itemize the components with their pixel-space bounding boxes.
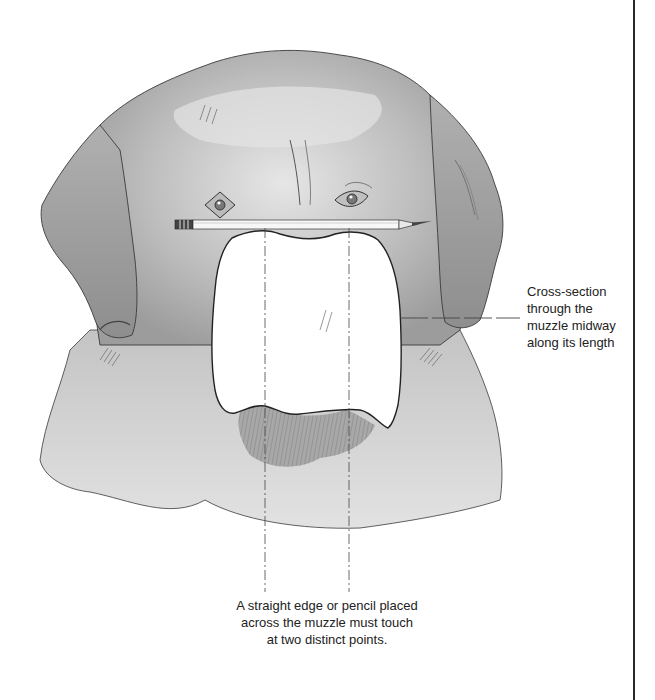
pencil-icon	[175, 220, 432, 229]
straight-edge-caption: A straight edge or pencil placed across …	[200, 597, 454, 648]
cross-section-label-line: muzzle midway	[527, 317, 632, 334]
cross-section-label-line: Cross-section	[527, 283, 632, 300]
cross-section-label-line: along its length	[527, 334, 632, 351]
straight-edge-caption-line: A straight edge or pencil placed	[200, 597, 454, 614]
right-ear	[430, 95, 503, 328]
straight-edge-caption-line: at two distinct points.	[200, 631, 454, 648]
muzzle-cross-section	[212, 231, 401, 428]
straight-edge-caption-line: across the muzzle must touch	[200, 614, 454, 631]
cross-section-label-line: through the	[527, 300, 632, 317]
cross-section-label: Cross-section through the muzzle midway …	[527, 283, 632, 351]
page-border-rule	[633, 0, 635, 700]
